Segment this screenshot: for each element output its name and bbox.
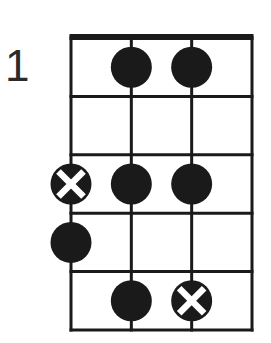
fretboard-diagram (0, 0, 271, 343)
root-note-marker (171, 280, 212, 321)
note-dot (51, 222, 92, 263)
root-note-marker (51, 164, 92, 205)
note-dot (171, 47, 212, 88)
nut (70, 34, 254, 40)
note-dot (111, 47, 152, 88)
note-dot (171, 164, 212, 205)
note-dot (111, 164, 152, 205)
fretboard-grid (70, 34, 254, 332)
note-dot (111, 280, 152, 321)
